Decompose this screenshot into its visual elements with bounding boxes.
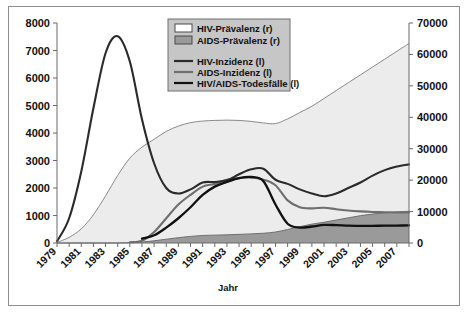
right-axis-tick-label: 40000 [417, 111, 448, 123]
x-axis-tick-label: 1985 [106, 245, 131, 270]
right-axis-tick-label: 10000 [417, 206, 448, 218]
x-axis-tick-label: 1995 [228, 245, 253, 270]
legend-swatch [175, 24, 192, 32]
hiv-aids-chart: 0100020003000400050006000700080000100002… [0, 0, 470, 316]
right-axis-tick-label: 0 [417, 237, 423, 249]
x-axis-tick-label: 1991 [179, 245, 204, 270]
legend-item-label: HIV-Inzidenz (l) [197, 56, 265, 67]
legend-item: HIV-Prävalenz (r) [175, 23, 273, 34]
x-axis-tick-label: 1979 [33, 245, 58, 270]
legend-item-label: AIDS-Inzidenz (l) [197, 67, 272, 78]
left-axis-tick-label: 1000 [26, 210, 50, 222]
x-axis-tick-label: 1989 [155, 245, 180, 270]
x-axis-tick-label: 1983 [82, 245, 107, 270]
x-axis-tick-label: 2005 [349, 245, 374, 270]
x-axis-tick-label: 1993 [203, 245, 228, 270]
x-axis-title: Jahr [218, 282, 238, 293]
x-axis-tick-label: 2001 [300, 245, 325, 270]
left-axis-tick-label: 3000 [26, 155, 50, 167]
left-axis-tick-label: 7000 [26, 45, 50, 57]
right-axis-tick-label: 30000 [417, 143, 448, 155]
legend-swatch [175, 36, 192, 44]
legend-item-label: HIV/AIDS-Todesfälle (l) [197, 78, 299, 89]
legend-item: AIDS-Prävalenz (r) [175, 35, 280, 46]
x-axis-tick-label: 2007 [373, 245, 398, 270]
x-axis-tick-label: 1999 [276, 245, 301, 270]
right-axis-tick-label: 60000 [417, 48, 448, 60]
left-axis-tick-label: 4000 [26, 127, 50, 139]
right-axis-tick-label: 20000 [417, 174, 448, 186]
x-axis-tick-label: 1987 [131, 245, 156, 270]
x-axis-tick-label: 1981 [58, 245, 83, 270]
x-axis-tick-label: 1997 [252, 245, 277, 270]
left-axis-tick-label: 8000 [26, 17, 50, 29]
right-axis-tick-label: 70000 [417, 17, 448, 29]
legend-item-label: AIDS-Prävalenz (r) [197, 35, 280, 46]
legend-item-label: HIV-Prävalenz (r) [197, 23, 273, 34]
left-axis-tick-label: 6000 [26, 72, 50, 84]
left-axis-tick-label: 2000 [26, 182, 50, 194]
chart-figure: 0100020003000400050006000700080000100002… [0, 0, 470, 316]
left-axis-tick-label: 5000 [26, 100, 50, 112]
right-axis-tick-label: 50000 [417, 80, 448, 92]
x-axis-tick-label: 2003 [325, 245, 350, 270]
